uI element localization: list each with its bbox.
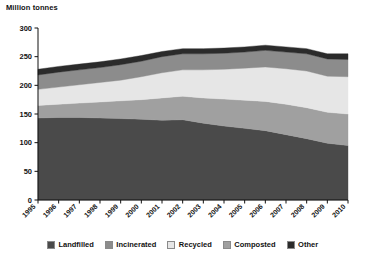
- x-axis-tick-label: 2005: [227, 203, 243, 219]
- chart-container: Million tonnes 050100150200250300 199519…: [0, 0, 365, 264]
- y-axis-tick-label: 250: [19, 52, 32, 61]
- x-axis-tick-label: 2006: [248, 203, 264, 219]
- x-axis-tick-label: 2004: [207, 203, 223, 219]
- x-axis-tick-label: 2003: [186, 203, 202, 219]
- x-axis-tick-label: 2000: [124, 203, 140, 219]
- legend-swatch-icon: [47, 241, 55, 249]
- y-axis-tick-label: 200: [19, 81, 32, 90]
- legend-label: Landfilled: [58, 240, 93, 249]
- x-axis-tick-label: 2010: [331, 203, 347, 219]
- legend-item-other[interactable]: Other: [287, 240, 319, 249]
- x-axis-tick-label: 1996: [41, 203, 57, 219]
- x-axis-tick-label: 2002: [165, 203, 181, 219]
- legend-swatch-icon: [167, 241, 175, 249]
- legend-item-incinerated[interactable]: Incinerated: [105, 240, 157, 249]
- y-axis: 050100150200250300: [19, 24, 38, 205]
- legend-swatch-icon: [223, 241, 231, 249]
- y-axis-tick-label: 100: [19, 138, 32, 147]
- stacked-area-plot: 050100150200250300 199519961997199819992…: [0, 0, 365, 240]
- y-axis-tick-label: 50: [24, 167, 32, 176]
- x-axis-tick-label: 2001: [145, 203, 161, 219]
- x-axis: 1995199619971998199920002001200220032004…: [21, 200, 348, 219]
- y-axis-tick-label: 150: [19, 110, 32, 119]
- legend-item-recycled[interactable]: Recycled: [167, 240, 211, 249]
- legend-label: Recycled: [179, 240, 212, 249]
- legend-item-landfilled[interactable]: Landfilled: [47, 240, 94, 249]
- x-axis-tick-label: 1997: [62, 203, 78, 219]
- legend-label: Other: [298, 240, 318, 249]
- legend-swatch-icon: [287, 241, 295, 249]
- legend-item-composted[interactable]: Composted: [223, 240, 276, 249]
- plot-areas: [38, 45, 348, 200]
- x-axis-tick-label: 2009: [310, 203, 326, 219]
- legend-label: Incinerated: [116, 240, 156, 249]
- x-axis-tick-label: 2008: [289, 203, 305, 219]
- x-axis-tick-label: 1999: [103, 203, 119, 219]
- y-axis-tick-label: 300: [19, 24, 32, 33]
- legend-label: Composted: [234, 240, 275, 249]
- legend-swatch-icon: [105, 241, 113, 249]
- chart-legend: LandfilledIncineratedRecycledCompostedOt…: [0, 240, 365, 249]
- x-axis-tick-label: 2007: [269, 203, 285, 219]
- x-axis-tick-label: 1995: [21, 203, 37, 219]
- x-axis-tick-label: 1998: [83, 203, 99, 219]
